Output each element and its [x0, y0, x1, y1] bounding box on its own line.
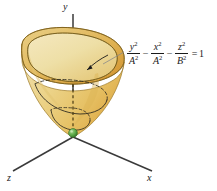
equation-term-3: z2 B2	[175, 41, 188, 66]
equation-equals-sign: =	[192, 48, 198, 59]
z-axis	[13, 137, 73, 171]
axis-label-y: y	[63, 1, 67, 12]
equation-term-1: y2 A2	[127, 41, 140, 66]
vertex-point-group	[69, 129, 78, 138]
term3-num-exponent: 2	[182, 40, 185, 47]
axis-label-z: z	[7, 172, 11, 183]
term1-num-exponent: 2	[134, 40, 137, 47]
hyperboloid-figure	[0, 0, 217, 191]
equation-term-2: x2 A2	[151, 41, 164, 66]
term1-den-exponent: 2	[135, 54, 138, 61]
equation-right-hand-side: 1	[199, 48, 204, 59]
surface-equation: y2 A2 − x2 A2 − z2 B2 = 1	[126, 41, 204, 66]
equation-operator-1: −	[143, 48, 149, 59]
vertex-point-highlight	[70, 130, 72, 132]
axis-label-x: x	[147, 172, 151, 183]
term2-num-exponent: 2	[158, 40, 161, 47]
x-axis	[73, 137, 152, 171]
vertex-point	[69, 129, 78, 138]
equation-operator-2: −	[167, 48, 173, 59]
term3-den-exponent: 2	[183, 54, 186, 61]
term2-den-exponent: 2	[159, 54, 162, 61]
